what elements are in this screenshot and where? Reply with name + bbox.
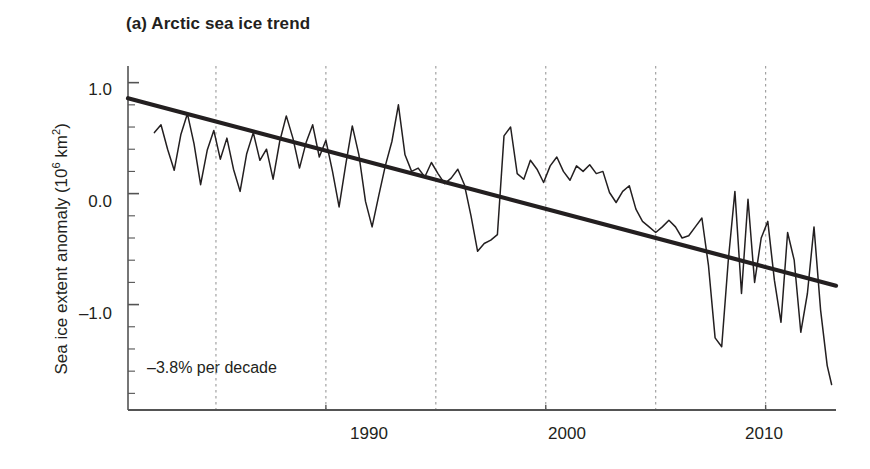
- y-axis-ticks-group: [128, 83, 139, 394]
- trend-line: [128, 98, 836, 286]
- chart-plot-area: [0, 0, 870, 469]
- figure-panel-a: (a) Arctic sea ice trend Sea ice extent …: [0, 0, 870, 469]
- data-series-line: [154, 105, 831, 385]
